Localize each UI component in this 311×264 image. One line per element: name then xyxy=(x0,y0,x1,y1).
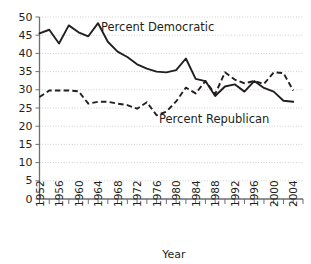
series-annotation-0: Percent Democratic xyxy=(101,20,214,34)
y-tick-label-50: 50 xyxy=(19,11,33,24)
y-tick-label-20: 20 xyxy=(19,120,33,133)
x-tick-label-1972: 1972 xyxy=(131,180,143,207)
x-tick-label-1956: 1956 xyxy=(53,180,65,207)
party-identification-line-chart: 05101520253035404550 1952195619601964196… xyxy=(0,0,311,264)
x-tick-label-1976: 1976 xyxy=(151,180,163,207)
y-tick-label-10: 10 xyxy=(19,156,33,169)
x-tick-label-1996: 1996 xyxy=(248,180,260,207)
y-tick-label-45: 45 xyxy=(19,29,33,42)
y-tick-labels-group: 05101520253035404550 xyxy=(19,11,33,206)
y-tick-label-35: 35 xyxy=(19,65,33,78)
y-tick-label-30: 30 xyxy=(19,83,33,96)
x-tick-label-2004: 2004 xyxy=(287,180,299,207)
x-tick-label-1952: 1952 xyxy=(34,180,46,207)
series-annotation-1: Percent Republican xyxy=(159,112,269,126)
y-tick-label-5: 5 xyxy=(26,174,33,187)
series-line-percent-republican xyxy=(40,72,294,115)
data-series-group xyxy=(40,23,294,115)
chart-container: 05101520253035404550 1952195619601964196… xyxy=(0,0,311,264)
x-tick-label-1984: 1984 xyxy=(190,180,202,207)
x-tick-label-1960: 1960 xyxy=(73,180,85,207)
series-annotations-group: Percent DemocraticPercent Republican xyxy=(101,20,269,126)
x-tick-label-1988: 1988 xyxy=(209,180,221,207)
x-axis-title: Year xyxy=(161,248,186,261)
x-tick-label-1992: 1992 xyxy=(229,180,241,207)
y-tick-label-25: 25 xyxy=(19,102,33,115)
y-tick-label-40: 40 xyxy=(19,47,33,60)
x-tick-label-1968: 1968 xyxy=(112,180,124,207)
x-tick-label-2000: 2000 xyxy=(268,180,280,207)
x-tick-label-1980: 1980 xyxy=(170,180,182,207)
gridlines-group xyxy=(40,17,304,181)
y-tick-label-15: 15 xyxy=(19,138,33,151)
y-tick-label-0: 0 xyxy=(26,193,33,206)
x-tick-label-1964: 1964 xyxy=(92,180,104,207)
